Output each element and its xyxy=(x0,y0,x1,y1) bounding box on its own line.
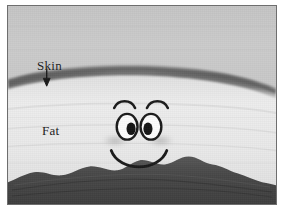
ultrasound-scan-plate: Skin Fat xyxy=(7,5,277,205)
label-skin: Skin xyxy=(37,58,62,74)
figure-frame: Skin Fat xyxy=(0,0,283,211)
right-pupil xyxy=(143,122,152,135)
left-pupil xyxy=(127,122,136,135)
scan-canvas xyxy=(8,6,276,204)
label-fat: Fat xyxy=(42,123,60,139)
